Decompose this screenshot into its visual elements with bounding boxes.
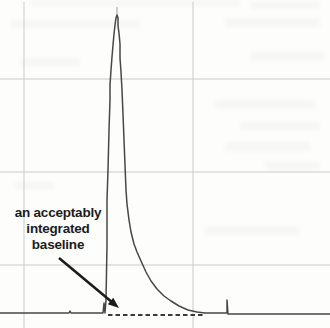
trace-line <box>0 15 330 314</box>
baseline-annotation: an acceptably integrated baseline <box>0 205 116 253</box>
annotation-line: baseline <box>0 237 116 253</box>
annotation-line: integrated <box>0 221 116 237</box>
grid-lines <box>0 2 330 328</box>
chromatogram-canvas <box>0 0 330 328</box>
chromatogram-figure: an acceptably integrated baseline <box>0 0 330 328</box>
annotation-line: an acceptably <box>0 205 116 221</box>
